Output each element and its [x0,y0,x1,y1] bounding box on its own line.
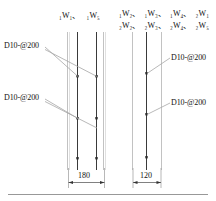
wall-tag-2w2: ₂W₂、 [119,22,141,30]
annotation-right-top: D10-@200 [171,54,206,62]
right-bar-mark-3 [145,156,147,158]
right-leader-top [147,58,170,74]
annotation-right-bottom: D10-@200 [171,99,206,107]
right-wall-tag-row-2: ₂W₂、 ₂W₃、 ₂W₄、 ₂W₅ [119,22,209,30]
dim-right-arrow-end [157,181,162,184]
wall-tag-1w4: ₁W₄、 [170,10,192,18]
dim-right-arrow-start [133,181,138,184]
left-leader-top-1 [45,47,78,77]
left-section-geometry [45,32,106,170]
drawing-canvas: ₁W₁、 ₁W₅ ₁W₂、 ₁W₃、 ₁W₄、 ₂W₁ ₂W₂、 ₂W₃、 ₂W… [0,0,216,201]
left-bar-mark-2b [95,117,97,119]
wall-tag-2w1: ₂W₁ [196,10,209,18]
wall-tag-1w3: ₁W₃、 [145,10,167,18]
right-section-geometry [133,32,171,170]
wall-tag-1w2: ₁W₂、 [119,10,141,18]
dim-left-arrow-end [100,181,105,184]
wall-tag-1w1: ₁W₁、 [59,12,81,20]
left-bar-mark-3a [76,157,78,159]
annotation-left-bottom: D10-@200 [4,94,39,102]
wall-tag-1w5: ₁W₅ [87,12,100,20]
dim-left-arrow-start [69,181,74,184]
right-wall-tag-row-1: ₁W₂、 ₁W₃、 ₁W₄、 ₂W₁ [119,10,209,18]
wall-tag-2w4: ₂W₄、 [170,22,192,30]
right-leader-bottom [147,103,170,115]
left-leader-top-2 [45,50,97,77]
annotation-left-top: D10-@200 [4,42,39,50]
left-leader-bottom-2 [45,102,97,129]
left-bar-mark-3b [95,157,97,159]
wall-tag-2w5: ₂W₅ [196,22,209,30]
wall-tag-2w3: ₂W₃、 [145,22,167,30]
dimension-value-left: 180 [78,172,90,180]
dimension-value-right: 120 [140,172,152,180]
left-wall-tag-row: ₁W₁、 ₁W₅ [59,12,100,20]
